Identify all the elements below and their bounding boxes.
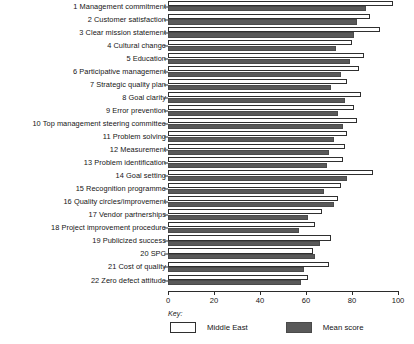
bar-middle-east xyxy=(168,183,341,188)
bar-group xyxy=(168,78,414,91)
legend-swatch-light xyxy=(170,322,196,333)
bar-middle-east xyxy=(168,196,338,201)
category-label: 1 Management commitment xyxy=(73,3,166,11)
legend-title: Key: xyxy=(168,309,182,318)
legend-swatch-dark xyxy=(286,322,312,333)
bar-group xyxy=(168,235,414,248)
category-label: 6 Participative management xyxy=(73,68,166,76)
bar-mean-score xyxy=(168,215,308,220)
category-label: 7 Strategic quality plan xyxy=(90,81,166,89)
chart-row: 15 Recognition programme xyxy=(0,183,414,196)
bar-mean-score xyxy=(168,189,324,194)
chart-row: 1 Management commitment xyxy=(0,0,414,13)
chart-row: 4 Cultural change xyxy=(0,39,414,52)
bar-mean-score xyxy=(168,19,357,24)
legend-item: Mean score xyxy=(286,322,364,333)
bar-middle-east xyxy=(168,262,329,267)
chart-row: 22 Zero defect attitude xyxy=(0,274,414,287)
bar-mean-score xyxy=(168,32,354,37)
bar-group xyxy=(168,91,414,104)
bar-mean-score xyxy=(168,137,334,142)
bar-middle-east xyxy=(168,118,357,123)
x-tick-label: 60 xyxy=(302,296,310,305)
bar-middle-east xyxy=(168,53,364,58)
legend-label: Middle East xyxy=(207,323,248,332)
x-tick-label: 80 xyxy=(348,296,356,305)
bar-mean-score xyxy=(168,59,350,64)
x-tick-label: 40 xyxy=(256,296,264,305)
chart-row: 5 Education xyxy=(0,52,414,65)
chart-row: 8 Goal clarity xyxy=(0,91,414,104)
bar-group xyxy=(168,39,414,52)
chart-row: 6 Participative management xyxy=(0,65,414,78)
category-label: 4 Cultural change xyxy=(107,42,166,50)
x-tick xyxy=(306,291,307,295)
x-tick xyxy=(398,291,399,295)
category-label: 11 Problem solving xyxy=(103,133,166,141)
chart-row: 20 SPC xyxy=(0,248,414,261)
category-label: 15 Recognition programme xyxy=(76,185,166,193)
bar-group xyxy=(168,196,414,209)
legend-item: Middle East xyxy=(170,322,248,333)
bar-mean-score xyxy=(168,150,329,155)
bar-group xyxy=(168,130,414,143)
bar-group xyxy=(168,52,414,65)
bar-mean-score xyxy=(168,6,366,11)
bar-mean-score xyxy=(168,241,320,246)
bar-group xyxy=(168,170,414,183)
category-label: 16 Quality circles/improvement xyxy=(63,198,166,206)
chart-row: 13 Problem identification xyxy=(0,157,414,170)
plot-area: 1 Management commitment2 Customer satisf… xyxy=(0,0,414,292)
chart-row: 21 Cost of quality xyxy=(0,261,414,274)
category-label: 2 Customer satisfaction xyxy=(88,16,166,24)
chart-row: 19 Publicized success xyxy=(0,235,414,248)
bar-middle-east xyxy=(168,157,343,162)
bar-mean-score xyxy=(168,72,341,77)
x-tick xyxy=(352,291,353,295)
x-tick xyxy=(214,291,215,295)
bar-mean-score xyxy=(168,85,331,90)
bar-middle-east xyxy=(168,14,370,19)
bar-mean-score xyxy=(168,163,327,168)
bar-group xyxy=(168,209,414,222)
bar-mean-score xyxy=(168,46,336,51)
bar-middle-east xyxy=(168,1,393,6)
chart-row: 10 Top management steering committee xyxy=(0,117,414,130)
category-label: 22 Zero defect attitude xyxy=(91,277,166,285)
category-label: 5 Education xyxy=(126,55,166,63)
bar-middle-east xyxy=(168,209,322,214)
bar-group xyxy=(168,65,414,78)
chart-row: 16 Quality circles/improvement xyxy=(0,196,414,209)
bar-group xyxy=(168,26,414,39)
bar-middle-east xyxy=(168,170,373,175)
bar-group xyxy=(168,183,414,196)
chart-row: 9 Error prevention xyxy=(0,104,414,117)
category-label: 19 Publicized success xyxy=(92,237,166,245)
bar-group xyxy=(168,222,414,235)
bar-middle-east xyxy=(168,144,345,149)
chart-legend: Middle EastMean score xyxy=(170,322,364,333)
bar-middle-east xyxy=(168,40,352,45)
x-tick-label: 0 xyxy=(166,296,170,305)
bar-middle-east xyxy=(168,248,313,253)
chart-row: 12 Measurement xyxy=(0,144,414,157)
bar-group xyxy=(168,104,414,117)
x-tick-label: 100 xyxy=(392,296,405,305)
bar-mean-score xyxy=(168,280,301,285)
bar-middle-east xyxy=(168,235,331,240)
category-label: 21 Cost of quality xyxy=(108,263,166,271)
bar-middle-east xyxy=(168,105,354,110)
bar-mean-score xyxy=(168,124,343,129)
bar-mean-score xyxy=(168,267,304,272)
category-label: 20 SPC xyxy=(140,250,166,258)
bar-group xyxy=(168,157,414,170)
bar-middle-east xyxy=(168,79,347,84)
chart-rows: 1 Management commitment2 Customer satisf… xyxy=(0,0,414,287)
category-label: 17 Vendor partnerships xyxy=(88,211,166,219)
chart-row: 7 Strategic quality plan xyxy=(0,78,414,91)
horizontal-bar-chart: 1 Management commitment2 Customer satisf… xyxy=(0,0,414,344)
bar-mean-score xyxy=(168,98,345,103)
x-axis-line xyxy=(168,291,398,292)
x-tick xyxy=(260,291,261,295)
category-label: 8 Goal clarity xyxy=(122,94,166,102)
